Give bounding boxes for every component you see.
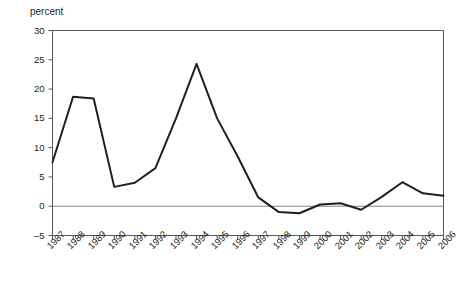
y-tick-label: 25: [19, 55, 45, 65]
y-tick-label: 0: [19, 201, 45, 211]
y-tick-label: 10: [19, 143, 45, 153]
data-series-group: [53, 64, 444, 213]
line-chart-plot: [0, 0, 465, 286]
plot-frame: [53, 31, 444, 236]
y-tick-label: 20: [19, 84, 45, 94]
y-tick-label: 5: [19, 172, 45, 182]
axis-ticks: [49, 31, 444, 240]
y-tick-label: –5: [19, 231, 45, 241]
y-tick-label: 15: [19, 113, 45, 123]
y-tick-label: 30: [19, 26, 45, 36]
chart-container: percent 302520151050–5 19871988198919901…: [0, 0, 465, 286]
